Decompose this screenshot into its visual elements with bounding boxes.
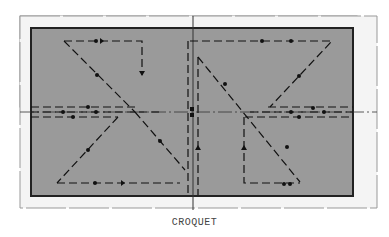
croquet-diagram — [0, 0, 389, 237]
diagram-caption: CROQUET — [0, 217, 389, 228]
